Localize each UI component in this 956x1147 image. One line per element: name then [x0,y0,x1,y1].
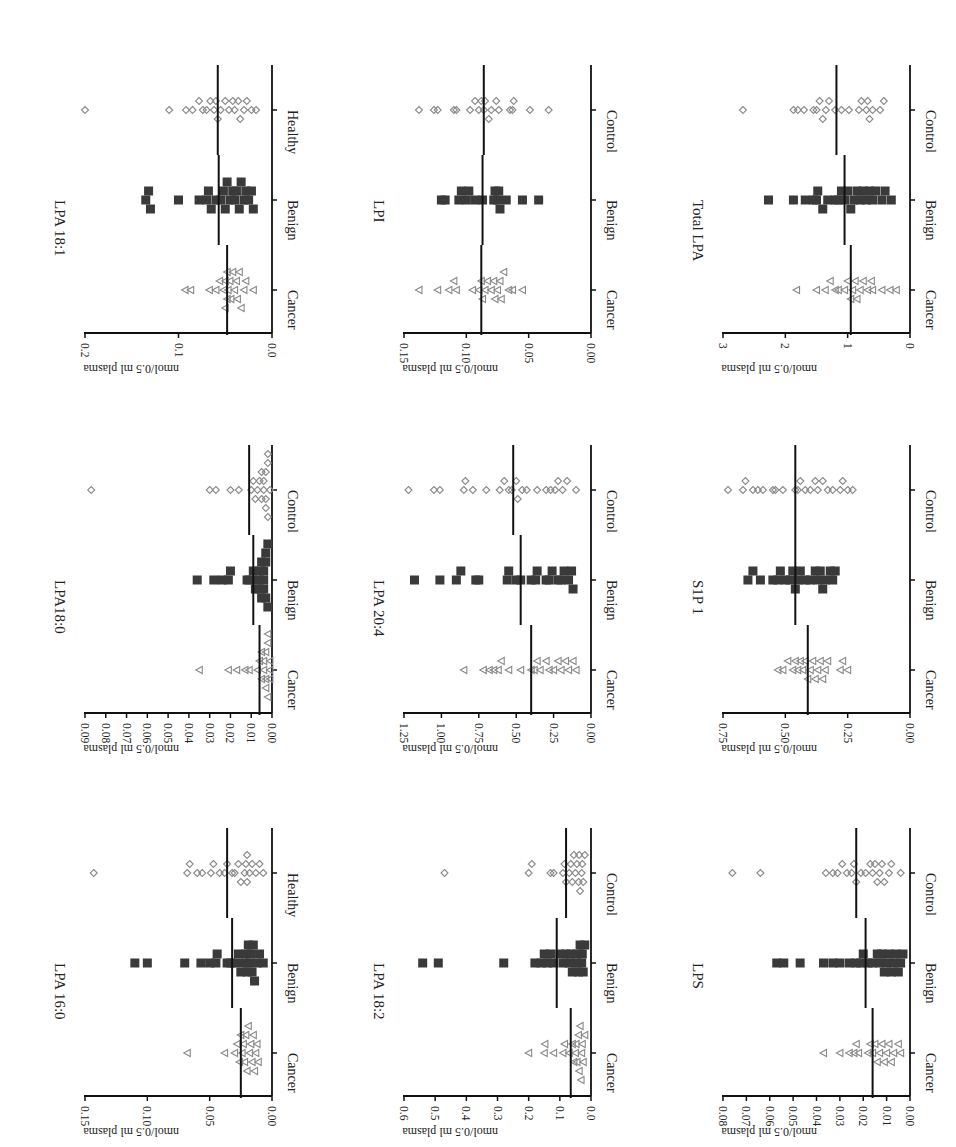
triangle-marker [460,667,467,674]
square-marker [474,576,483,585]
category-label: Cancer [603,670,619,710]
square-marker [868,196,877,205]
diamond-marker [493,98,500,105]
triangle-marker [824,658,831,665]
triangle-marker [883,1050,890,1057]
square-marker [246,950,255,959]
diamond-marker [829,487,836,494]
category-label: Benign [284,580,300,620]
square-marker [812,196,821,205]
plot-area [0,0,318,382]
diamond-marker [90,870,97,877]
square-marker [569,585,578,594]
diamond-marker [855,107,862,114]
diamond-marker [88,487,95,494]
plot-area [0,763,318,1145]
panel-title: S1P 1 [689,580,706,615]
triangle-marker [555,658,562,665]
square-marker [452,576,461,585]
triangle-marker [819,676,826,683]
category-label: Benign [284,200,300,240]
square-marker [232,187,241,196]
diamond-marker [184,870,191,877]
square-marker [130,959,139,968]
triangle-marker [857,287,864,294]
panel-lpa-20-4: LPA 20:4CancerBenignControl0.000.250.500… [319,380,637,762]
square-marker [779,959,788,968]
panel-s1p-1: S1P 1CancerBenignControl0.000.250.500.75… [638,380,956,762]
diamond-marker [812,478,819,485]
triangle-marker [561,1041,568,1048]
square-marker [196,959,205,968]
diamond-marker [580,879,587,886]
square-marker [180,959,189,968]
triangle-marker [496,278,503,285]
diamond-marker [754,487,761,494]
category-label: Control [603,873,619,916]
triangle-marker [240,287,247,294]
triangle-marker [579,1041,586,1048]
square-marker [796,959,805,968]
panel-title: LPA 16:0 [51,963,68,1020]
category-label: Benign [603,963,619,1003]
panel-lpa-18-1: LPA 18:1CancerBenignHealthy0.00.10.2nmol… [0,0,318,382]
category-label: Benign [922,963,938,1003]
triangle-marker [860,278,867,285]
square-marker [174,196,183,205]
diamond-marker [534,487,541,494]
diamond-marker [485,116,492,123]
tick-label: 0.50 [510,723,522,743]
panel-title: LPA 20:4 [370,580,387,637]
triangle-marker [517,667,524,674]
plot-area [638,763,956,1145]
triangle-marker [878,287,885,294]
diamond-marker [82,107,89,114]
diamond-marker [829,870,836,877]
triangle-marker [234,296,241,303]
diamond-marker [888,861,895,868]
tick-label: 0.00 [585,723,597,743]
diamond-marker [880,98,887,105]
tick-label: 0.0 [585,1106,597,1120]
tick-label: 2 [779,343,791,349]
triangle-marker [254,1041,261,1048]
square-marker [221,205,230,214]
diamond-marker [876,870,883,877]
triangle-marker [264,640,271,647]
square-marker [144,187,153,196]
tick-label: 0.1 [554,1106,566,1120]
tick-label: 0.2 [79,343,91,357]
panel-title: Total LPA [689,200,706,261]
diamond-marker [739,107,746,114]
diamond-marker [757,870,764,877]
triangle-marker [837,667,844,674]
triangle-marker [264,631,271,638]
square-marker [534,196,543,205]
square-marker [261,549,270,558]
diamond-marker [849,487,856,494]
diamond-marker [262,505,269,512]
triangle-marker [813,287,820,294]
category-label: Healthy [284,873,300,917]
diamond-marker [807,487,814,494]
triangle-marker [534,658,541,665]
triangle-marker [565,667,572,674]
panel-total-lpa: Total LPACancerBenignControl0123nmol/0.5… [638,0,956,382]
category-label: Cancer [922,670,938,710]
axis-title: nmol/0.5 ml plasma [83,741,179,756]
square-marker [818,585,827,594]
diamond-marker [877,107,884,114]
triangle-marker [221,1050,228,1057]
triangle-marker [212,287,219,294]
square-marker [819,959,828,968]
diamond-marker [729,870,736,877]
diamond-marker [495,107,502,114]
triangle-marker [784,658,791,665]
diamond-marker [237,116,244,123]
panel-lpa-16-0: LPA 16:0CancerBenignHealthy0.000.050.100… [0,763,318,1145]
square-marker [261,558,270,567]
diamond-marker [256,861,263,868]
category-label: Cancer [922,290,938,330]
square-marker [577,959,586,968]
square-marker [143,959,152,968]
